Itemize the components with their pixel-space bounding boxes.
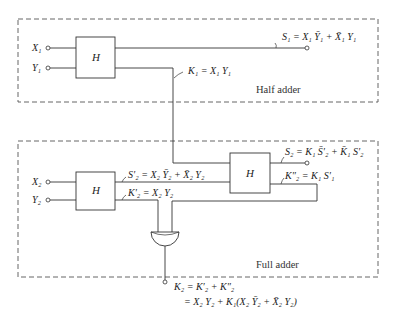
s2-output-terminal: [305, 161, 309, 165]
k2-prime-wire: [115, 200, 158, 236]
y1-label: Y₁: [32, 63, 41, 73]
k1-equation: K₁ = X₁ Y₁: [188, 66, 231, 76]
k2-double-prime-equation: K″₂ = K₁ S′₁: [285, 171, 334, 181]
full-adder-right-h-label: H: [246, 168, 254, 179]
x1-label: X₁: [32, 43, 42, 53]
k2-equation-line2: = X₂ Y₂ + K₁(X₂ Ȳ₂ + X̄₂ Y₂): [184, 297, 297, 307]
k1-wire: [115, 68, 230, 163]
x1-input-terminal: [46, 46, 50, 50]
full-adder-boundary: [18, 141, 378, 277]
full-adder-left-h-label: H: [92, 185, 100, 196]
y2-label: Y₂: [32, 195, 41, 205]
s2-equation: S₂ = K₁ S̄′₂ + K̄₁ S′₂: [285, 147, 364, 157]
x2-input-terminal: [46, 180, 50, 184]
s2-prime-equation: S′₂ = X₂ Ȳ₂ + X̄₂ Y₂: [128, 170, 204, 180]
full-adder-diagram: [0, 0, 393, 322]
y2-input-terminal: [46, 198, 50, 202]
k2-output-terminal: [163, 280, 167, 284]
x2-label: X₂: [32, 177, 42, 187]
k2-equation-line1: K₂ = K′₂ + K″₂: [174, 282, 234, 292]
s1-output-terminal: [305, 46, 309, 50]
full-adder-caption: Full adder: [256, 260, 299, 271]
s1-equation: S₁ = X₁ Ȳ₁ + X̄₁ Y₁: [282, 32, 356, 42]
or-gate: [151, 232, 179, 246]
k2-prime-equation: K′₂ = X₂ Y₂: [128, 188, 173, 198]
half-adder-h-label: H: [92, 52, 100, 63]
y1-input-terminal: [46, 66, 50, 70]
half-adder-caption: Half adder: [256, 85, 301, 96]
